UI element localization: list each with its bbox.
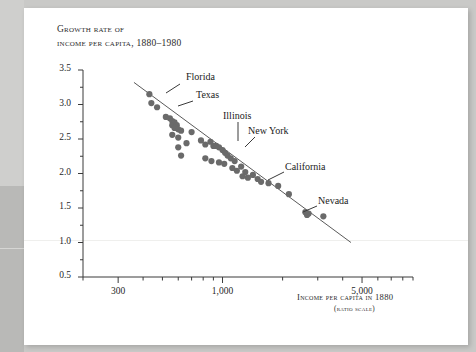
data-point — [178, 152, 184, 158]
annotation-leader-line — [268, 172, 284, 180]
data-point — [238, 164, 244, 170]
data-point — [189, 129, 195, 135]
data-point — [275, 183, 281, 189]
data-point — [286, 191, 292, 197]
data-point — [265, 180, 271, 186]
page-background: Growth rate of income per capita, 1880–1… — [0, 0, 476, 352]
data-point — [154, 104, 160, 110]
data-point — [320, 213, 326, 219]
x-tick-label: 5,000 — [339, 286, 385, 296]
data-point — [221, 161, 227, 167]
data-point — [183, 140, 189, 146]
annotation-leader-line — [166, 84, 180, 93]
y-tick-label: 3.5 — [45, 63, 71, 73]
y-tick-label: 2.5 — [45, 132, 71, 142]
data-point — [306, 210, 312, 216]
data-point — [239, 173, 245, 179]
annotation-leaders-group — [166, 84, 317, 212]
data-point — [148, 100, 154, 106]
y-tick-label: 1.0 — [45, 236, 71, 246]
data-point — [202, 155, 208, 161]
x-tick-label: 1,000 — [200, 286, 246, 296]
y-tick-label: 0.5 — [45, 270, 71, 280]
data-point — [178, 128, 184, 134]
x-tick-label: 300 — [95, 286, 141, 296]
data-point — [232, 158, 238, 164]
y-tick-label: 1.5 — [45, 201, 71, 211]
annotation-leader-line — [178, 101, 193, 106]
data-point — [175, 144, 181, 150]
data-point — [258, 179, 264, 185]
point-annotation-label: Nevada — [318, 195, 349, 206]
data-point — [250, 172, 256, 178]
y-tick-label: 2.0 — [45, 167, 71, 177]
point-annotation-label: Illinois — [223, 110, 251, 121]
data-point — [146, 91, 152, 97]
point-annotation-label: New York — [248, 125, 289, 136]
point-annotation-label: California — [285, 161, 326, 172]
data-point — [175, 135, 181, 141]
data-point — [216, 159, 222, 165]
data-point — [208, 158, 214, 164]
scatter-plot — [0, 0, 476, 352]
point-annotation-label: Florida — [186, 71, 215, 82]
y-tick-label: 3.0 — [45, 98, 71, 108]
data-point — [169, 132, 175, 138]
annotation-leader-line — [245, 137, 255, 147]
point-annotation-label: Texas — [196, 89, 219, 100]
